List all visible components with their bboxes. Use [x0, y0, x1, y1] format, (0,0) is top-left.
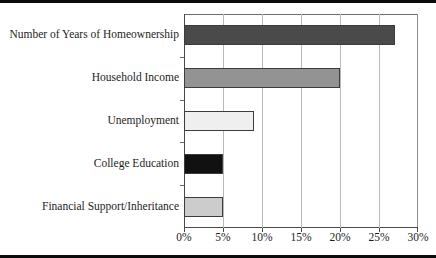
value-axis-tick-labels: 0%5%10%15%20%25%30% — [0, 0, 436, 258]
value-tick-label: 20% — [329, 232, 350, 244]
value-tick-label: 15% — [290, 232, 311, 244]
bar-chart-figure: Number of Years of HomeownershipHousehol… — [0, 0, 436, 258]
value-tick-label: 10% — [251, 232, 272, 244]
value-tick-label: 25% — [368, 232, 389, 244]
value-tick-label: 0% — [176, 232, 191, 244]
value-tick-label: 30% — [407, 232, 428, 244]
value-tick-label: 5% — [215, 232, 230, 244]
